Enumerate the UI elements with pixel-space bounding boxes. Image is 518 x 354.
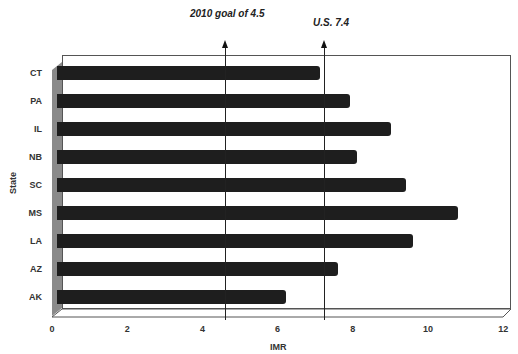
y-label-nb: NB <box>12 152 42 162</box>
x-tick-12: 12 <box>493 324 513 334</box>
bar-il <box>57 122 391 136</box>
x-tick-2: 2 <box>117 324 137 334</box>
bar-az <box>57 262 338 276</box>
x-tick-0: 0 <box>42 324 62 334</box>
y-label-ct: CT <box>12 68 42 78</box>
us-annotation: U.S. 7.4 <box>313 17 349 28</box>
bar-la <box>57 234 413 248</box>
bar-ms <box>57 206 458 220</box>
us-reference-line <box>324 46 325 320</box>
bar-pa <box>57 94 350 108</box>
bar-ct <box>57 66 320 80</box>
goal-annotation: 2010 goal of 4.5 <box>190 8 264 19</box>
x-tick-6: 6 <box>268 324 288 334</box>
bar-ak <box>57 290 286 304</box>
y-label-il: IL <box>12 124 42 134</box>
bar-sc <box>57 178 406 192</box>
y-label-az: AZ <box>12 264 42 274</box>
y-label-pa: PA <box>12 96 42 106</box>
us-arrow-icon <box>321 40 327 48</box>
y-label-la: LA <box>12 236 42 246</box>
x-axis-title: IMR <box>270 342 287 352</box>
y-label-ak: AK <box>12 292 42 302</box>
y-label-ms: MS <box>12 208 42 218</box>
bar-nb <box>57 150 357 164</box>
goal-reference-line <box>225 46 226 320</box>
goal-arrow-icon <box>222 40 228 48</box>
x-tick-10: 10 <box>418 324 438 334</box>
x-tick-4: 4 <box>192 324 212 334</box>
y-axis-title: State <box>8 172 18 194</box>
x-tick-8: 8 <box>343 324 363 334</box>
